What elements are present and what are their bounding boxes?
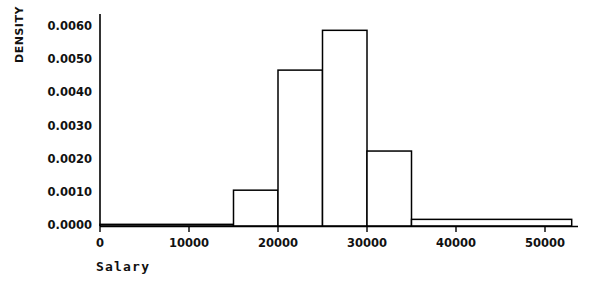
histogram-bar xyxy=(367,151,412,226)
histogram-bars xyxy=(100,30,572,226)
histogram-chart: DENSITY Salary 0.00000.00100.00200.00300… xyxy=(0,0,597,294)
histogram-bar xyxy=(234,190,279,226)
x-axis-tick-marks xyxy=(100,227,545,233)
plot-area xyxy=(0,0,597,294)
histogram-bar xyxy=(278,70,323,226)
histogram-bar xyxy=(412,219,572,226)
histogram-bar xyxy=(323,30,368,226)
